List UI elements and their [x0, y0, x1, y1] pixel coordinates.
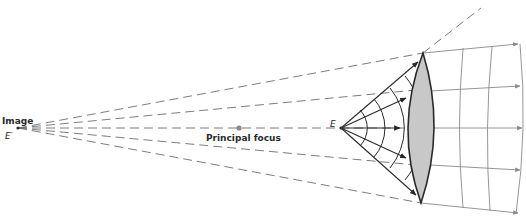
object-point-label: E — [330, 119, 336, 129]
converging-lens-diagram: Image E′ Principal focus E — [0, 0, 526, 217]
outgoing-rays — [421, 44, 522, 213]
image-point-label: E′ — [5, 131, 13, 141]
principal-focus-dot — [236, 125, 241, 130]
image-label: Image — [2, 116, 33, 126]
convex-lens — [408, 53, 434, 203]
image-point-dot — [16, 126, 19, 129]
incident-rays — [341, 62, 418, 195]
principal-focus-label: Principal focus — [206, 133, 281, 143]
object-point-dot — [339, 126, 342, 129]
outgoing-wavefronts — [460, 44, 524, 214]
